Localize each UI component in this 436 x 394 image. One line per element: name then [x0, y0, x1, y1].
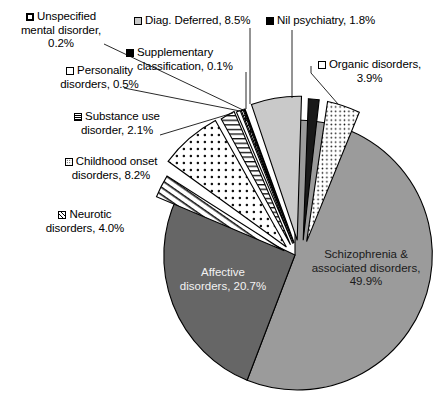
label-neurotic-line1: Neurotic [69, 208, 111, 220]
label-organic-line1: Organic disorders, [329, 58, 421, 70]
label-nil-line1: Nil psychiatry, 1.8% [277, 14, 375, 26]
swatch-substance-icon [74, 113, 82, 121]
pie-slices [157, 96, 433, 390]
label-schizophrenia-line1: Schizophrenia & [324, 248, 408, 260]
swatch-diag-deferred-icon [134, 17, 142, 25]
label-substance-line2: disorder, 2.1% [81, 124, 153, 136]
label-organic-line2: 3.9% [318, 72, 421, 86]
label-supplementary-line1: Supplementary [137, 46, 213, 58]
label-diag-deferred[interactable]: Diag. Deferred, 8.5% [134, 14, 250, 28]
label-childhood-onset-disorders[interactable]: Childhood onset disorders, 8.2% [48, 155, 174, 182]
label-diag-deferred-line1: Diag. Deferred, 8.5% [145, 14, 250, 26]
label-schizophrenia-line2: associated disorders, [312, 262, 421, 274]
label-organic-disorders[interactable]: Organic disorders, 3.9% [318, 58, 421, 85]
pie-chart-figure: Unspecified mental disorder, 0.2% Person… [0, 0, 436, 394]
swatch-organic-icon [318, 61, 326, 69]
label-unspecified-line3: 0.2% [48, 37, 74, 49]
label-childhood-line2: disorders, 8.2% [72, 169, 150, 181]
swatch-unspecified-icon [26, 13, 34, 21]
swatch-childhood-icon [65, 158, 73, 166]
label-supplementary-classification[interactable]: Supplementary classification, 0.1% [126, 46, 233, 73]
label-personality-line1: Personality [77, 64, 133, 76]
label-schizophrenia[interactable]: Schizophrenia & associated disorders, 49… [304, 248, 428, 289]
swatch-personality-icon [66, 67, 74, 75]
label-affective-line2: disorders, 20.7% [180, 280, 266, 292]
swatch-neurotic-icon [58, 211, 66, 219]
label-substance-line1: Substance use [85, 110, 160, 122]
label-substance-use-disorder[interactable]: Substance use disorder, 2.1% [58, 110, 176, 137]
label-affective-line1: Affective [201, 266, 245, 278]
label-unspecified-line1: Unspecified [37, 10, 96, 22]
swatch-supplementary-icon [126, 49, 134, 57]
label-schizophrenia-line3: 49.9% [350, 275, 383, 287]
label-nil-psychiatry[interactable]: Nil psychiatry, 1.8% [266, 14, 375, 28]
swatch-nil-psychiatry-icon [266, 17, 274, 25]
label-neurotic-disorders[interactable]: Neurotic disorders, 4.0% [30, 208, 140, 235]
label-supplementary-line2: classification, 0.1% [137, 60, 233, 72]
label-neurotic-line2: disorders, 4.0% [46, 222, 124, 234]
label-unspecified-line2: mental disorder, [21, 24, 101, 36]
leader-personality [124, 88, 240, 111]
label-unspecified-mental-disorder[interactable]: Unspecified mental disorder, 0.2% [6, 10, 116, 51]
label-personality-line2: disorders, 0.5% [60, 78, 138, 90]
label-childhood-line1: Childhood onset [76, 155, 158, 167]
label-affective[interactable]: Affective disorders, 20.7% [160, 266, 286, 293]
